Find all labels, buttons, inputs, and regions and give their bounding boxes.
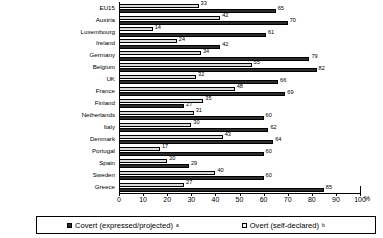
bar-covert — [119, 33, 266, 37]
legend-item-overt: Overt (self-declared)b — [242, 221, 325, 230]
legend-label-overt: Overt (self-declared) — [250, 221, 319, 230]
x-tick-label: 20 — [163, 196, 171, 203]
bar-value-covert: 69 — [287, 90, 293, 96]
x-tick-label: 50 — [236, 196, 244, 203]
bar-overt — [119, 135, 223, 139]
bar-covert — [119, 21, 288, 25]
bar-value-overt: 40 — [217, 168, 223, 174]
category-label: Spain — [0, 160, 115, 166]
category-label: Italy — [0, 124, 115, 130]
category-label: Finland — [0, 100, 115, 106]
x-tick-label: 60 — [260, 196, 268, 203]
bar-value-covert: 66 — [280, 78, 286, 84]
bar-value-covert: 65 — [278, 6, 284, 12]
x-tick-label: 30 — [187, 196, 195, 203]
bar-value-covert: 82 — [319, 66, 325, 72]
chart-legend: Covert (expressed/projected)a Overt (sel… — [36, 216, 376, 234]
bar-overt — [119, 63, 252, 67]
legend-item-covert: Covert (expressed/projected)a — [67, 221, 179, 230]
bar-overt — [119, 87, 235, 91]
category-label: France — [0, 88, 115, 94]
bar-covert — [119, 152, 264, 156]
bar-value-overt: 32 — [198, 72, 204, 78]
legend-swatch-overt-icon — [242, 223, 247, 228]
bar-covert — [119, 164, 189, 168]
category-label: Belgium — [0, 64, 115, 70]
bar-covert — [119, 140, 273, 144]
bar-value-covert: 85 — [326, 185, 332, 191]
category-label: UK — [0, 76, 115, 82]
category-label: EU15 — [0, 5, 115, 11]
bar-overt — [119, 27, 153, 31]
bar-overt — [119, 123, 191, 127]
bar-value-overt: 42 — [222, 13, 228, 19]
bar-value-overt: 55 — [254, 60, 260, 66]
legend-label-covert: Covert (expressed/projected) — [75, 221, 173, 230]
bar-value-overt: 14 — [155, 25, 161, 31]
bar-overt — [119, 183, 184, 187]
bar-value-overt: 24 — [179, 37, 185, 43]
bar-value-overt: 27 — [186, 180, 192, 186]
bar-overt — [119, 171, 215, 175]
category-label: Austria — [0, 17, 115, 23]
bar-value-covert: 27 — [186, 102, 192, 108]
bar-overt — [119, 39, 177, 43]
legend-swatch-covert-icon — [67, 223, 72, 228]
x-tick-label: 80 — [308, 196, 316, 203]
category-label: Sweden — [0, 172, 115, 178]
bar-covert — [119, 104, 184, 108]
bar-covert — [119, 80, 278, 84]
category-label: Germany — [0, 52, 115, 58]
bar-value-overt: 48 — [237, 84, 243, 90]
legend-superscript-covert: a — [176, 222, 179, 228]
bar-value-overt: 31 — [196, 108, 202, 114]
bar-value-covert: 29 — [191, 161, 197, 167]
bar-value-covert: 60 — [266, 173, 272, 179]
bar-covert — [119, 9, 276, 13]
bar-overt — [119, 111, 194, 115]
bar-value-overt: 35 — [205, 96, 211, 102]
bar-chart: EU15AustriaLuxembourgIrelandGermanyBelgi… — [0, 0, 383, 238]
bar-covert — [119, 92, 285, 96]
x-tick-label: 40 — [211, 196, 219, 203]
x-tick-label: 90 — [332, 196, 340, 203]
bar-value-covert: 62 — [270, 125, 276, 131]
bar-value-overt: 20 — [169, 156, 175, 162]
bar-value-overt: 17 — [162, 144, 168, 150]
category-label: Luxembourg — [0, 29, 115, 35]
plot-area: 3365427014612442347955823266486935273160… — [119, 2, 360, 193]
bar-value-overt: 30 — [193, 120, 199, 126]
x-axis-unit-label: % — [364, 195, 370, 202]
bar-overt — [119, 51, 201, 55]
bar-covert — [119, 116, 264, 120]
bar-value-overt: 33 — [201, 1, 207, 7]
x-tick-label: 70 — [284, 196, 292, 203]
bar-value-covert: 79 — [311, 54, 317, 60]
x-tick-label: 0 — [117, 196, 121, 203]
bar-overt — [119, 159, 167, 163]
bar-value-overt: 43 — [225, 132, 231, 138]
x-tick-label: 10 — [139, 196, 147, 203]
bar-value-covert: 42 — [222, 42, 228, 48]
bar-value-covert: 70 — [290, 18, 296, 24]
bar-value-covert: 60 — [266, 113, 272, 119]
bar-covert — [119, 128, 268, 132]
category-label-column: EU15AustriaLuxembourgIrelandGermanyBelgi… — [0, 2, 116, 193]
legend-superscript-overt: b — [322, 222, 325, 228]
bar-value-covert: 61 — [268, 30, 274, 36]
category-label: Netherlands — [0, 112, 115, 118]
category-label: Ireland — [0, 40, 115, 46]
category-label: Portugal — [0, 148, 115, 154]
category-label: Greece — [0, 184, 115, 190]
bar-covert — [119, 57, 309, 61]
bar-value-overt: 34 — [203, 49, 209, 55]
bar-covert — [119, 68, 317, 72]
bar-value-covert: 60 — [266, 149, 272, 155]
bar-overt — [119, 16, 220, 20]
bar-overt — [119, 75, 196, 79]
bar-overt — [119, 4, 199, 8]
bar-value-covert: 64 — [275, 137, 281, 143]
category-label: Denmark — [0, 136, 115, 142]
bar-overt — [119, 147, 160, 151]
bar-covert — [119, 188, 324, 192]
